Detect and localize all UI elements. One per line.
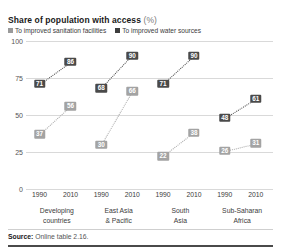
x-axis-year-label: 1990 (32, 191, 47, 198)
chart-legend: To improved sanitation facilities To imp… (8, 27, 201, 34)
source-note: Source: Online table 2.16. (8, 233, 88, 240)
data-point-label: 90 (188, 52, 199, 60)
legend-label-sanitation: To improved sanitation facilities (15, 27, 106, 34)
legend-swatch-water-icon (115, 28, 120, 33)
x-axis-group-label-line: Africa (222, 216, 262, 226)
y-axis-tick-label: 25 (0, 149, 23, 156)
data-point-label: 22 (157, 152, 168, 160)
x-axis-year-label: 1990 (94, 191, 109, 198)
data-point-label: 38 (188, 129, 199, 137)
x-axis-year-label: 1990 (156, 191, 171, 198)
legend-label-water: To improved water sources (122, 27, 201, 34)
x-axis-year-label: 2010 (186, 191, 201, 198)
y-axis-tick-label: 0 (0, 186, 23, 193)
x-axis-group-label: SouthAsia (171, 206, 189, 225)
x-axis-year-label: 2010 (63, 191, 78, 198)
data-point-label: 86 (65, 58, 76, 66)
data-point-label: 66 (126, 87, 137, 95)
data-point-label: 61 (250, 95, 261, 103)
data-point-label: 71 (34, 80, 45, 88)
chart-title-text: Share of population with access (8, 15, 141, 25)
data-point-label: 26 (219, 146, 230, 154)
x-axis-group-label-line: Sub-Saharan (222, 206, 262, 216)
x-axis-group-label-line: Asia (171, 216, 189, 226)
gridline (26, 152, 273, 153)
x-axis-group-label: Sub-SaharanAfrica (222, 206, 262, 225)
chart-title-unit: (%) (143, 15, 157, 25)
data-point-label: 68 (96, 84, 107, 92)
x-axis-year-label: 1990 (217, 191, 232, 198)
source-label: Source: (8, 233, 33, 240)
x-axis-group-label-line: & Pacific (104, 216, 132, 226)
footer-divider (8, 229, 273, 230)
x-axis-year-label: 2010 (125, 191, 140, 198)
source-text: Online table 2.16. (35, 233, 88, 240)
x-axis-group-label-line: Developing (40, 206, 74, 216)
data-point-label: 48 (219, 114, 230, 122)
data-point-label: 37 (34, 130, 45, 138)
data-point-label: 90 (126, 52, 137, 60)
x-axis-group-label-line: South (171, 206, 189, 216)
x-axis-group-label: East Asia& Pacific (104, 206, 132, 225)
gridline (26, 41, 273, 42)
y-axis-tick-label: 75 (0, 75, 23, 82)
data-point-label: 71 (157, 80, 168, 88)
x-axis-group-label-line: countries (40, 216, 74, 226)
chart-page: Share of population with access (%) To i… (0, 0, 281, 249)
data-point-label: 30 (96, 140, 107, 148)
bottom-bar (8, 245, 273, 247)
data-point-label: 31 (250, 139, 261, 147)
y-axis-tick-label: 50 (0, 112, 23, 119)
chart-title: Share of population with access (%) (8, 15, 157, 25)
x-axis-group-label: Developingcountries (40, 206, 74, 225)
data-point-label: 56 (65, 102, 76, 110)
y-axis-tick-label: 100 (0, 38, 23, 45)
legend-swatch-sanitation-icon (8, 28, 13, 33)
plot-area: 0255075100375630662238263171866890719048… (26, 41, 273, 189)
legend-item-sanitation: To improved sanitation facilities (8, 27, 106, 34)
legend-item-water: To improved water sources (115, 27, 201, 34)
x-axis-year-label: 2010 (248, 191, 263, 198)
gridline (26, 115, 273, 116)
x-axis-group-label-line: East Asia (104, 206, 132, 216)
y-axis: 0255075100 (26, 41, 273, 189)
gridline (26, 78, 273, 79)
